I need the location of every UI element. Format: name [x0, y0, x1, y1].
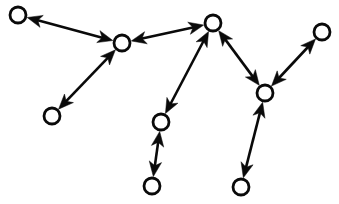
graph-edge: [165, 31, 208, 113]
graph-node[interactable]: [44, 108, 60, 124]
edge-line: [246, 112, 260, 168]
arrowhead-icon: [219, 31, 233, 47]
edge-line: [66, 57, 109, 102]
graph-node[interactable]: [144, 178, 160, 194]
graph-edge: [271, 39, 315, 86]
node-layer: [10, 7, 330, 195]
graph-node[interactable]: [205, 15, 221, 31]
graph-node[interactable]: [114, 35, 130, 51]
graph-node[interactable]: [153, 114, 169, 130]
graph-figure: [0, 0, 339, 204]
edge-line: [141, 27, 194, 39]
graph-node[interactable]: [257, 85, 273, 101]
arrowhead-icon: [245, 70, 259, 86]
edge-line: [155, 141, 159, 166]
edge-line: [37, 20, 103, 38]
graph-node[interactable]: [233, 179, 249, 195]
graph-edge: [149, 131, 163, 176]
graph-canvas: [0, 0, 339, 204]
edge-line: [225, 39, 254, 78]
edge-line: [170, 40, 204, 104]
graph-edge: [219, 31, 260, 86]
graph-edge: [59, 50, 116, 109]
graph-node[interactable]: [10, 7, 26, 23]
graph-edge: [27, 15, 113, 42]
edge-line: [278, 46, 308, 79]
graph-edge: [241, 102, 265, 178]
graph-node[interactable]: [314, 24, 330, 40]
graph-edge: [131, 22, 203, 44]
